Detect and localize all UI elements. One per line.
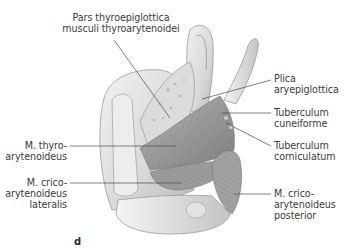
cricoid-cartilage bbox=[116, 195, 230, 234]
anatomy-figure: Pars thyroepiglottica musculi thyroaryte… bbox=[0, 0, 344, 252]
label-tuberculum-cuneiforme: Tuberculum cuneiforme bbox=[274, 107, 329, 129]
label-plica-aryepiglottica: Plica aryepiglottica bbox=[274, 73, 339, 95]
arytenoid-horn bbox=[224, 39, 258, 104]
label-m-cricoarytenoideus-posterior: M. crico- arytenoideus posterior bbox=[274, 188, 336, 221]
panel-letter: d bbox=[74, 236, 81, 247]
label-m-cricoarytenoideus-lateralis: M. crico- arytenoideus lateralis bbox=[0, 177, 67, 210]
label-pars-thyroepiglottica: Pars thyroepiglottica musculi thyroaryte… bbox=[60, 12, 182, 34]
label-tuberculum-corniculatum: Tuberculum corniculatum bbox=[274, 140, 336, 162]
tuberculum-cuneiforme-shape bbox=[224, 116, 228, 120]
label-m-thyroarytenoideus: M. thyro- arytenoideus bbox=[0, 140, 67, 162]
cricoid-facet bbox=[186, 202, 206, 218]
